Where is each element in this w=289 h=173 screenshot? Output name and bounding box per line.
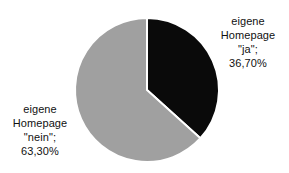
label-nein-line-2: Homepage <box>0 116 90 130</box>
label-nein-value: 63,30% <box>0 144 90 158</box>
pie-chart: eigene Homepage "ja"; 36,70% eigene Home… <box>0 0 289 173</box>
label-ja-line-3: "ja"; <box>198 42 289 56</box>
label-nein-line-1: eigene <box>0 102 90 116</box>
label-ja-line-2: Homepage <box>198 28 289 42</box>
pie-slice-label-ja: eigene Homepage "ja"; 36,70% <box>198 14 289 70</box>
pie-slice-label-nein: eigene Homepage "nein"; 63,30% <box>0 102 90 158</box>
label-ja-line-1: eigene <box>198 14 289 28</box>
label-ja-value: 36,70% <box>198 56 289 70</box>
label-nein-line-3: "nein"; <box>0 130 90 144</box>
